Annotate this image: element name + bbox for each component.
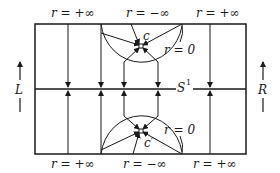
top-arc-label: r = 0 xyxy=(164,43,195,57)
bottom-label-1: r = +∞ xyxy=(51,157,94,171)
top-label-2: r = −∞ xyxy=(126,6,169,20)
top-label-1: r = +∞ xyxy=(51,6,94,20)
bottom-arc-label: r = 0 xyxy=(164,123,195,137)
bottom-label-2: r = −∞ xyxy=(123,157,166,171)
phase-diagram: r = +∞ r = −∞ r = +∞ r = +∞ r = −∞ r = +… xyxy=(0,0,280,173)
side-label-right: R xyxy=(257,83,267,97)
point-c-prime-label: c′ xyxy=(144,136,154,150)
bottom-label-3: r = +∞ xyxy=(193,157,236,171)
point-c-prime xyxy=(139,129,143,133)
point-c xyxy=(139,44,143,48)
s1-label: S xyxy=(177,81,185,95)
s1-superscript: 1 xyxy=(186,78,191,87)
top-label-3: r = +∞ xyxy=(196,6,239,20)
side-label-left: L xyxy=(14,83,23,97)
point-c-label: c xyxy=(143,29,150,43)
